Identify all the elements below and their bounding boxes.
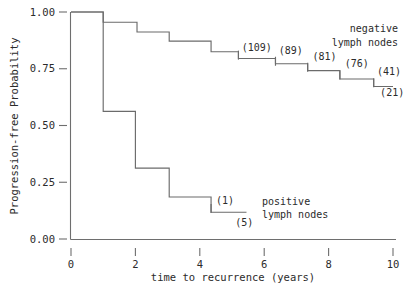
x-tick-label: 6 [261,258,267,270]
survival-curve-1 [71,12,246,212]
x-tick-label: 8 [325,258,331,270]
series-label-positive: lymph nodes [262,209,328,220]
x-tick-label: 2 [132,258,138,270]
y-axis-tick-labels: 0.000.250.500.751.00 [30,6,55,245]
risk-count-label: (1) [216,195,234,206]
risk-count-label: (21) [380,87,404,98]
risk-count-label: (76) [345,58,369,69]
x-axis-title: time to recurrence (years) [151,271,315,283]
risk-count-label: (89) [279,45,303,56]
x-axis-ticks [71,248,393,256]
y-tick-label: 0.75 [30,62,55,74]
y-tick-label: 0.25 [30,176,55,188]
x-tick-label: 0 [68,258,74,270]
series-label-positive: positive [262,196,310,207]
chart-page: 0.000.250.500.751.00 0246810 (109)(89)(8… [0,0,409,295]
risk-count-label: (109) [242,42,272,53]
y-axis-ticks [59,12,67,239]
series-label-negative: negative [350,23,398,34]
x-axis-tick-labels: 0246810 [68,258,399,270]
y-tick-label: 0.00 [30,233,55,245]
risk-count-label: (5) [235,217,253,228]
x-tick-label: 10 [387,258,400,270]
series-label-negative: lymph nodes [332,37,398,48]
risk-count-label: (81) [313,51,337,62]
survival-curve-0 [71,12,393,86]
risk-count-label: (41) [377,66,401,77]
y-tick-label: 0.50 [30,119,55,131]
y-tick-label: 1.00 [30,6,55,18]
kaplan-meier-plot: 0.000.250.500.751.00 0246810 (109)(89)(8… [0,0,409,295]
y-axis-title: Progression-free Probability [8,37,20,214]
censoring-marks [211,51,374,213]
x-tick-label: 4 [197,258,203,270]
